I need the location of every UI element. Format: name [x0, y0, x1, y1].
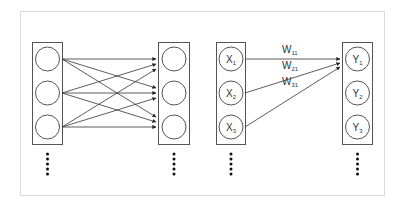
diagram-frame — [21, 12, 385, 196]
input-node — [36, 47, 60, 71]
output-node — [162, 47, 186, 71]
output-node — [162, 115, 186, 139]
output-node — [162, 81, 186, 105]
input-node — [36, 81, 60, 105]
neural-network-diagram: X1 X2 X3 Y1 Y2 Y3 W11 W21 W31 — [0, 0, 403, 209]
input-node — [36, 115, 60, 139]
